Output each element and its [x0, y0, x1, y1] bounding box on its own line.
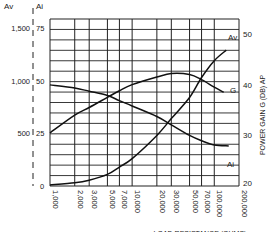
right-axis-label: POWER GAIN G (DB) AP	[259, 75, 267, 155]
ai-tick-label: 0	[40, 182, 44, 191]
right-tick-label: 40	[243, 81, 252, 90]
av-axis-label: Av	[4, 2, 13, 11]
ai-tick-label: 50	[36, 77, 44, 86]
x-tick-label: 20,000	[158, 190, 167, 213]
x-tick-label: 10,000	[133, 190, 142, 213]
ai-axis-label: Ai	[36, 2, 43, 11]
curve-g	[50, 73, 224, 132]
av-tick-label: 500	[17, 129, 30, 138]
right-tick-label: 30	[243, 131, 252, 140]
curve-label-ai: Ai	[227, 160, 234, 169]
right-tick-label: 20	[243, 179, 252, 188]
x-axis-label: LOAD RESISTANCE (OHMS)	[154, 230, 247, 232]
x-tick-label: 50,000	[191, 190, 200, 213]
av-tick-label: 1,000	[11, 77, 30, 86]
x-tick-label: 3,000	[90, 190, 99, 209]
x-tick-label: 5,000	[108, 190, 117, 209]
x-tick-label: 2,000	[76, 190, 85, 209]
av-tick-label: 1,500	[11, 24, 30, 33]
curve-label-av: Av	[228, 33, 237, 42]
gain-vs-load-chart: 1,0002,0003,0005,0007,00010,00020,00030,…	[0, 0, 271, 232]
ai-tick-label: 25	[36, 129, 44, 138]
x-tick-label: 100,000	[215, 190, 224, 217]
grid	[50, 19, 239, 186]
x-tick-label: 1,000	[51, 190, 60, 209]
ai-tick-label: 75	[36, 24, 44, 33]
x-tick-label: 70,000	[203, 190, 212, 213]
x-tick-label: 200,000	[240, 190, 249, 217]
x-tick-label: 7,000	[120, 190, 129, 209]
right-tick-label: 50	[243, 30, 252, 39]
x-tick-label: 30,000	[172, 190, 181, 213]
curve-label-g: G	[230, 86, 236, 95]
